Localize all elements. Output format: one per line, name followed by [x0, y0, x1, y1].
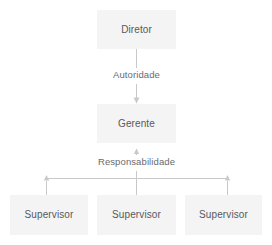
arrowhead-down-authority	[134, 98, 140, 104]
node-supervisor-center-label: Supervisor	[112, 210, 161, 220]
node-supervisor-center[interactable]: Supervisor	[97, 195, 176, 235]
node-supervisor-left[interactable]: Supervisor	[10, 195, 88, 235]
arrowhead-up-responsibility-center	[134, 149, 139, 155]
org-chart-diagram: Diretor Autoridade Gerente Responsabilid…	[0, 0, 272, 245]
node-gerente[interactable]: Gerente	[97, 104, 176, 143]
arrowhead-up-responsibility-right	[225, 175, 230, 181]
node-diretor[interactable]: Diretor	[97, 10, 176, 49]
node-supervisor-right-label: Supervisor	[199, 210, 248, 220]
node-gerente-label: Gerente	[118, 119, 155, 129]
node-diretor-label: Diretor	[121, 25, 152, 35]
node-supervisor-right[interactable]: Supervisor	[185, 195, 262, 235]
edge-label-responsabilidade: Responsabilidade	[86, 155, 187, 169]
arrowhead-up-responsibility-left	[44, 175, 49, 181]
edge-label-autoridade-text: Autoridade	[113, 69, 160, 80]
node-supervisor-left-label: Supervisor	[25, 210, 74, 220]
edge-label-responsabilidade-text: Responsabilidade	[98, 156, 175, 167]
edge-label-autoridade: Autoridade	[97, 68, 176, 82]
